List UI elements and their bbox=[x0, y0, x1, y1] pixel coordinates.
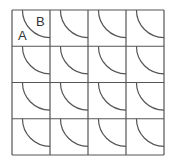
quarter-circle-arc bbox=[136, 119, 164, 147]
tile-arcs bbox=[22, 10, 164, 146]
quarter-circle-arc bbox=[60, 83, 88, 111]
label-a: A bbox=[18, 28, 27, 43]
quarter-circle-arc bbox=[136, 83, 164, 111]
quarter-circle-arc bbox=[60, 10, 88, 38]
quarter-circle-arc bbox=[98, 10, 126, 38]
quarter-circle-arc bbox=[98, 119, 126, 147]
quarter-circle-arc bbox=[22, 46, 50, 74]
quarter-circle-arc bbox=[22, 83, 50, 111]
quarter-circle-arc bbox=[22, 119, 50, 147]
label-b: B bbox=[36, 14, 45, 29]
quarter-circle-arc bbox=[136, 46, 164, 74]
grid-diagram: A B bbox=[0, 0, 175, 162]
quarter-circle-arc bbox=[98, 46, 126, 74]
quarter-circle-arc bbox=[136, 10, 164, 38]
quarter-circle-arc bbox=[98, 83, 126, 111]
quarter-circle-arc bbox=[60, 119, 88, 147]
quarter-circle-arc bbox=[60, 46, 88, 74]
